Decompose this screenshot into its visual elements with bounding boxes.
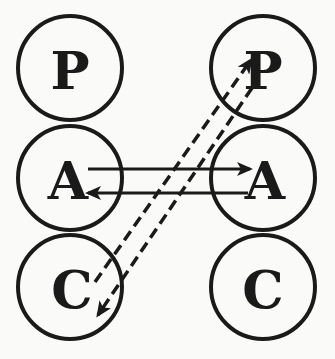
transaction-diagram: P A C P A C [0,0,335,359]
right-adult-label: A [244,150,286,211]
right-child-node: C [211,235,315,339]
left-parent-node: P [18,16,122,120]
left-child-node: C [18,235,122,339]
left-person: P A C [18,16,122,339]
right-person: P A C [211,16,315,339]
left-adult-node: A [18,126,122,230]
left-adult-label: A [47,150,89,211]
right-adult-node: A [211,126,315,230]
right-parent-node: P [211,16,315,120]
left-child-label: C [51,259,92,320]
right-child-label: C [242,259,283,320]
left-parent-label: P [50,40,89,101]
